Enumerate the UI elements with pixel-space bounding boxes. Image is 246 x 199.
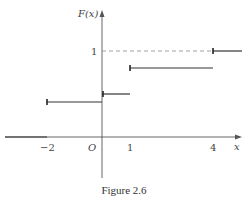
y-axis-label: F(x): [77, 8, 98, 19]
x-tick-1: 1: [127, 142, 133, 153]
x-axis-arrow-icon: [235, 135, 242, 140]
y-axis-arrow-icon: [100, 10, 105, 17]
figure-caption: Figure 2.6: [101, 184, 147, 196]
x-tick-4: 4: [210, 142, 216, 153]
x-axis-label: x: [234, 141, 240, 152]
x-tick-neg2: −2: [40, 142, 55, 153]
origin-label: O: [88, 142, 96, 153]
y-tick-1: 1: [91, 46, 97, 57]
cdf-step-chart: F(x) 1 −2 O 1 4 x Figure 2.6: [0, 0, 246, 199]
